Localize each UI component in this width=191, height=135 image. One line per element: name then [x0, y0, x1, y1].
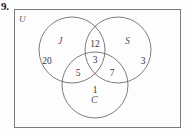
region-value-c-only: 1 — [93, 85, 98, 95]
region-value-s-and-c: 7 — [110, 68, 115, 78]
region-value-j-only: 20 — [42, 56, 52, 66]
set-label-c: C — [91, 94, 98, 105]
region-value-j-and-c: 5 — [76, 68, 81, 78]
venn-diagram: U J S C 20 3 1 12 5 7 3 — [0, 0, 191, 135]
region-value-s-only: 3 — [141, 56, 146, 66]
circle-set-j — [39, 17, 105, 83]
universal-set-label: U — [19, 14, 26, 24]
universal-set-frame — [15, 10, 181, 128]
worksheet-figure: 9. U J S C 20 3 1 12 5 7 3 — [0, 0, 191, 135]
circle-set-s — [85, 17, 151, 83]
region-value-all-three: 3 — [93, 55, 98, 65]
set-label-j: J — [58, 35, 63, 46]
set-label-s: S — [125, 35, 130, 46]
region-value-j-and-s: 12 — [90, 39, 100, 49]
